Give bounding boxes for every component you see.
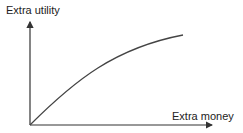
y-axis-label: Extra utility [6,4,60,16]
utility-curve [30,35,183,125]
x-axis-label: Extra money [172,110,234,122]
